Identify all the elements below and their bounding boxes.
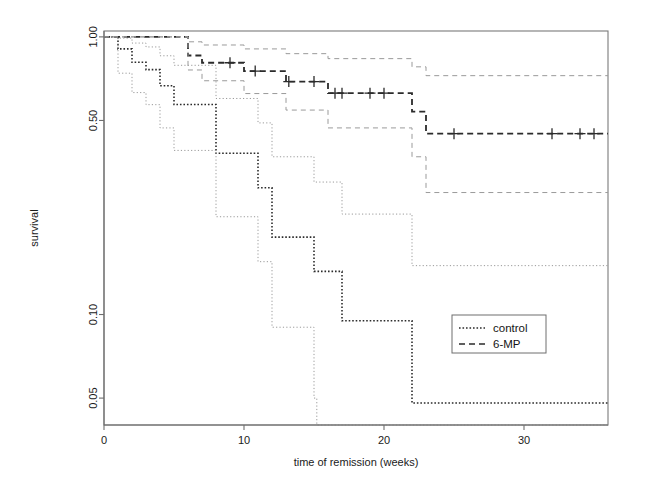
y-tick-label: 0.50 (87, 110, 99, 131)
y-axis-title: survival (28, 209, 40, 246)
y-tick-label: 0.05 (87, 387, 99, 408)
legend-label-6-mp: 6-MP (493, 338, 521, 350)
legend-label-control: control (493, 322, 528, 334)
plot-background (0, 0, 647, 486)
figure-page: 0102030time of remission (weeks) 1.000.5… (0, 0, 647, 486)
plot-legend[interactable]: control6-MP (452, 315, 546, 353)
y-tick-label: 1.00 (87, 26, 99, 47)
y-tick-label: 0.10 (87, 304, 99, 325)
x-tick-label: 30 (518, 434, 530, 446)
x-axis-title: time of remission (weeks) (294, 456, 419, 468)
survival-plot: 0102030time of remission (weeks) 1.000.5… (0, 0, 647, 486)
x-tick-label: 0 (101, 434, 107, 446)
x-tick-label: 10 (238, 434, 250, 446)
x-tick-label: 20 (378, 434, 390, 446)
